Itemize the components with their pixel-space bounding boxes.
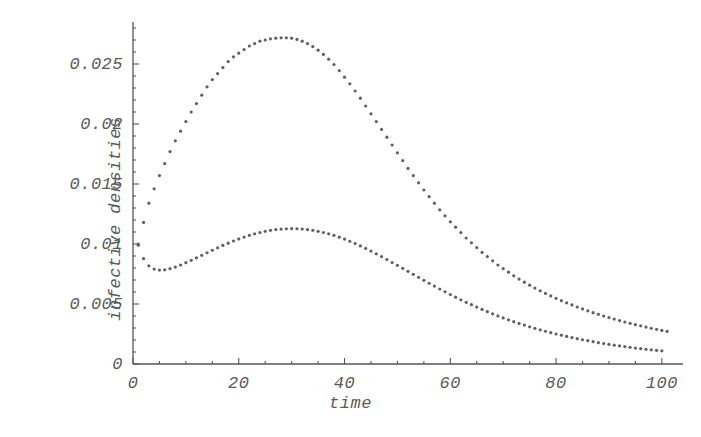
data-point xyxy=(311,45,314,48)
data-point xyxy=(475,306,478,309)
data-point xyxy=(295,38,298,41)
data-point xyxy=(549,331,552,334)
data-point xyxy=(322,231,325,234)
data-point xyxy=(375,120,378,123)
data-point xyxy=(523,324,526,327)
data-point xyxy=(517,322,520,325)
data-point xyxy=(290,37,293,40)
data-point xyxy=(195,256,198,259)
data-point xyxy=(258,231,261,234)
data-point xyxy=(385,136,388,139)
data-point xyxy=(486,310,489,313)
data-point xyxy=(205,251,208,254)
data-point xyxy=(338,69,341,72)
data-point xyxy=(486,255,489,258)
data-point xyxy=(216,72,219,75)
data-point xyxy=(655,328,658,331)
data-point xyxy=(592,340,595,343)
data-point xyxy=(279,36,282,39)
data-point xyxy=(184,261,187,264)
data-point xyxy=(454,226,457,229)
data-point xyxy=(502,267,505,270)
data-point xyxy=(592,311,595,314)
data-point xyxy=(433,202,436,205)
data-point xyxy=(613,344,616,347)
data-point xyxy=(480,308,483,311)
data-point xyxy=(301,228,304,231)
data-point xyxy=(417,276,420,279)
data-point xyxy=(539,289,542,292)
data-point xyxy=(264,38,267,41)
data-point xyxy=(465,301,468,304)
data-point xyxy=(237,52,240,55)
data-point xyxy=(449,220,452,223)
data-point xyxy=(317,49,320,52)
data-point xyxy=(623,320,626,323)
data-point xyxy=(364,247,367,250)
data-point xyxy=(359,97,362,100)
data-point xyxy=(544,292,547,295)
data-point xyxy=(163,162,166,165)
data-point xyxy=(438,208,441,211)
data-point xyxy=(147,202,150,205)
data-point xyxy=(274,228,277,231)
data-point xyxy=(634,346,637,349)
data-point xyxy=(433,285,436,288)
data-point xyxy=(354,89,357,92)
data-point xyxy=(364,104,367,107)
data-point xyxy=(322,53,325,56)
data-point xyxy=(523,281,526,284)
data-point xyxy=(317,230,320,233)
data-point xyxy=(666,330,669,333)
data-point xyxy=(412,273,415,276)
data-point xyxy=(428,282,431,285)
data-point xyxy=(253,232,256,235)
data-point xyxy=(650,348,653,351)
data-point xyxy=(163,268,166,271)
data-point xyxy=(232,239,235,242)
data-point xyxy=(660,349,663,352)
data-point xyxy=(137,244,140,247)
data-point xyxy=(391,261,394,264)
data-point xyxy=(153,187,156,190)
data-point xyxy=(142,221,145,224)
data-point xyxy=(465,236,468,239)
data-point xyxy=(380,128,383,131)
data-point xyxy=(554,297,557,300)
data-point xyxy=(354,242,357,245)
data-point xyxy=(375,252,378,255)
series-strain-1-points xyxy=(137,36,669,333)
data-point xyxy=(639,324,642,327)
data-point xyxy=(597,341,600,344)
data-point xyxy=(512,274,515,277)
data-point xyxy=(517,277,520,280)
data-point xyxy=(401,159,404,162)
data-point xyxy=(179,130,182,133)
data-point xyxy=(227,60,230,63)
data-point xyxy=(332,63,335,66)
data-point xyxy=(629,346,632,349)
data-point xyxy=(269,37,272,40)
data-point xyxy=(539,328,542,331)
data-point xyxy=(470,241,473,244)
data-point xyxy=(295,227,298,230)
data-point xyxy=(179,263,182,266)
data-point xyxy=(491,259,494,262)
data-point xyxy=(507,271,510,274)
data-point xyxy=(369,112,372,115)
data-point xyxy=(242,235,245,238)
data-point xyxy=(576,305,579,308)
data-point xyxy=(607,343,610,346)
data-point xyxy=(560,334,563,337)
data-point xyxy=(232,55,235,58)
data-point xyxy=(454,296,457,299)
data-point xyxy=(533,286,536,289)
data-point xyxy=(359,244,362,247)
data-point xyxy=(168,267,171,270)
data-point xyxy=(285,36,288,39)
data-point xyxy=(613,318,616,321)
data-point xyxy=(502,316,505,319)
data-point xyxy=(565,301,568,304)
data-point xyxy=(443,214,446,217)
data-point xyxy=(248,44,251,47)
